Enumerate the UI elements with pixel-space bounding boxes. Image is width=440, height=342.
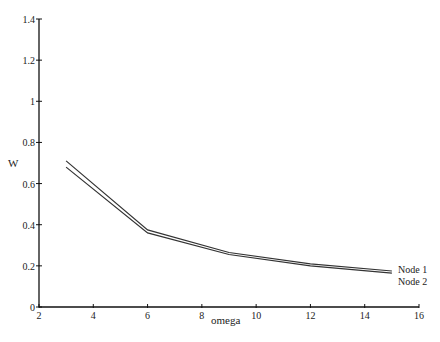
series-lines bbox=[66, 161, 392, 273]
y-axis-label: W bbox=[8, 157, 19, 169]
legend: Node 1Node 2 bbox=[398, 264, 427, 287]
x-tick-label: 2 bbox=[37, 310, 42, 321]
axes: 00.20.40.60.811.21.4246810121416 bbox=[23, 14, 425, 321]
y-tick-label: 1.4 bbox=[23, 14, 36, 25]
y-tick-label: 0.6 bbox=[23, 179, 36, 190]
y-tick-label: 0 bbox=[30, 302, 35, 313]
x-tick-label: 16 bbox=[414, 310, 424, 321]
y-tick-label: 1 bbox=[30, 96, 35, 107]
x-tick-label: 14 bbox=[360, 310, 370, 321]
y-tick-label: 1.2 bbox=[23, 55, 36, 66]
x-tick-label: 6 bbox=[145, 310, 150, 321]
y-tick-label: 0.8 bbox=[23, 137, 36, 148]
x-tick-label: 8 bbox=[199, 310, 204, 321]
y-tick-label: 0.4 bbox=[23, 220, 36, 231]
x-tick-label: 4 bbox=[91, 310, 96, 321]
x-axis-label: omega bbox=[211, 314, 240, 326]
series-line-node-2 bbox=[66, 167, 392, 273]
axis-labels: W omega bbox=[8, 157, 240, 326]
y-tick-label: 0.2 bbox=[23, 261, 36, 272]
line-chart: 00.20.40.60.811.21.4246810121416 W omega… bbox=[0, 0, 440, 342]
legend-label-node-2: Node 2 bbox=[398, 276, 427, 287]
x-tick-label: 12 bbox=[305, 310, 315, 321]
legend-label-node-1: Node 1 bbox=[398, 264, 427, 275]
x-tick-label: 10 bbox=[251, 310, 261, 321]
